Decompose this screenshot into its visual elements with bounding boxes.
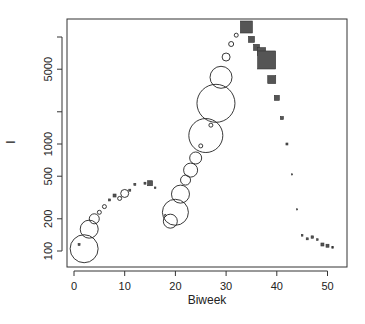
x-tick-label: 30 — [220, 280, 232, 292]
x-tick-label: 20 — [169, 280, 181, 292]
circle-point — [118, 196, 122, 200]
square-point — [286, 143, 288, 145]
square-point — [78, 244, 80, 246]
square-point — [306, 238, 308, 240]
circle-point — [209, 123, 213, 127]
x-tick-label: 50 — [321, 280, 333, 292]
circle-point — [184, 163, 198, 177]
square-point — [332, 247, 334, 249]
circle-point — [197, 84, 235, 122]
circle-point — [97, 210, 101, 214]
square-point — [144, 182, 146, 184]
square-point — [268, 76, 276, 84]
circle-point — [222, 53, 230, 61]
y-tick-label: 100 — [42, 242, 54, 260]
x-tick-label: 40 — [271, 280, 283, 292]
square-point — [240, 21, 252, 33]
y-tick-label: 500 — [42, 167, 54, 185]
y-axis: 10020050010005000 — [42, 37, 62, 260]
square-point — [291, 174, 292, 175]
y-axis-title: I — [4, 140, 18, 143]
square-point — [154, 187, 156, 189]
square-point — [317, 239, 319, 241]
x-axis: 01020304050 — [71, 271, 334, 292]
plot-box — [67, 19, 347, 267]
square-point — [321, 243, 324, 246]
y-tick-label: 1000 — [42, 132, 54, 156]
y-tick-label: 200 — [42, 210, 54, 228]
circle-point — [199, 144, 203, 148]
circle-point — [234, 33, 238, 37]
square-point — [129, 189, 131, 191]
x-tick-label: 0 — [71, 280, 77, 292]
circle-point — [102, 205, 106, 209]
square-point — [148, 181, 153, 186]
square-point — [134, 183, 136, 185]
circle-point — [70, 235, 98, 263]
scatter-chart: 01020304050 10020050010005000 Biweek I — [0, 0, 365, 324]
square-point — [258, 51, 276, 69]
square-point — [301, 235, 303, 237]
circle-point — [189, 119, 223, 153]
data-points — [70, 21, 333, 263]
circle-point — [190, 152, 202, 164]
circle-point — [162, 199, 188, 225]
square-point — [274, 95, 279, 100]
square-point — [326, 244, 329, 247]
circle-point — [89, 214, 99, 224]
x-axis-title: Biweek — [188, 293, 228, 307]
circle-point — [229, 42, 234, 47]
square-point — [296, 209, 297, 210]
square-point — [113, 194, 116, 197]
circle-point — [121, 189, 129, 197]
square-point — [108, 199, 110, 201]
y-tick-label: 5000 — [42, 57, 54, 81]
square-point — [280, 116, 283, 119]
square-point — [248, 36, 254, 42]
x-tick-label: 10 — [119, 280, 131, 292]
square-point — [311, 236, 313, 238]
